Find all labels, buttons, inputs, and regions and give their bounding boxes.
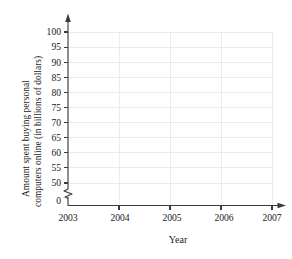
- top-caption: [0, 0, 292, 5]
- y-axis-arrow-up-icon: [65, 14, 71, 23]
- vertical-gridlines: [68, 32, 272, 205]
- x-tick-label-2004: 2004: [110, 212, 129, 223]
- y-tick-marks: [64, 32, 69, 183]
- x-axis-title: Year: [0, 234, 292, 245]
- chart-figure: 100 95 90 85 80 75 70 65 60 55 50 0 2003…: [0, 0, 292, 259]
- y-tick-label-65: 65: [51, 132, 61, 143]
- x-tick-label-2003: 2003: [58, 212, 77, 223]
- y-tick-label-50: 50: [51, 177, 61, 188]
- x-tick-label-2006: 2006: [214, 212, 233, 223]
- x-axis-arrow-right-icon: [278, 203, 287, 209]
- y-tick-label-75: 75: [51, 102, 61, 113]
- x-tick-label-2005: 2005: [162, 212, 181, 223]
- y-tick-label-70: 70: [51, 117, 61, 128]
- y-tick-label-100: 100: [47, 26, 62, 37]
- y-tick-label-0: 0: [56, 195, 61, 206]
- y-tick-label-85: 85: [51, 72, 61, 83]
- y-tick-label-80: 80: [51, 87, 61, 98]
- y-tick-label-60: 60: [51, 147, 61, 158]
- y-tick-label-90: 90: [51, 57, 61, 68]
- y-tick-labels: 100 95 90 85 80 75 70 65 60 55 50 0: [47, 26, 62, 205]
- x-tick-labels: 2003 2004 2005 2006 2007: [58, 212, 281, 223]
- x-tick-label-2007: 2007: [262, 212, 281, 223]
- chart-svg: 100 95 90 85 80 75 70 65 60 55 50 0 2003…: [0, 0, 292, 259]
- x-axis-title-text: Year: [169, 234, 187, 245]
- y-tick-label-95: 95: [51, 41, 61, 52]
- x-tick-marks: [119, 206, 272, 211]
- y-tick-label-55: 55: [51, 162, 61, 173]
